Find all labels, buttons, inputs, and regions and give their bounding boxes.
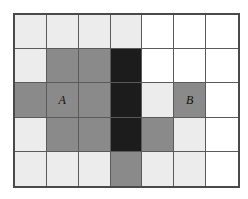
grid-cell-r4-c4 — [111, 118, 143, 152]
grid-cell-r3-c5 — [142, 83, 174, 117]
grid-cell-r2-c3 — [79, 49, 111, 83]
shaded-grid: AB — [13, 13, 240, 188]
grid-cell-r3-c1 — [15, 83, 47, 117]
grid-cell-r1-c3 — [79, 15, 111, 49]
grid-cell-r4-c5 — [142, 118, 174, 152]
grid-cell-r2-c6 — [174, 49, 206, 83]
grid-cell-r4-c2 — [47, 118, 79, 152]
grid-cell-r2-c5 — [142, 49, 174, 83]
grid-cell-r2-c7 — [206, 49, 238, 83]
grid-cell-r1-c2 — [47, 15, 79, 49]
grid-cell-r3-c4 — [111, 83, 143, 117]
grid-cell-r5-c6 — [174, 152, 206, 186]
grid-cell-r1-c1 — [15, 15, 47, 49]
grid-cell-r2-c2 — [47, 49, 79, 83]
cell-label-a: A — [59, 94, 66, 106]
grid-cell-r5-c1 — [15, 152, 47, 186]
grid-cell-r4-c3 — [79, 118, 111, 152]
grid-cell-r3-c7 — [206, 83, 238, 117]
grid-cell-r1-c7 — [206, 15, 238, 49]
grid-cell-r4-c7 — [206, 118, 238, 152]
cell-label-b: B — [186, 94, 193, 106]
grid-cell-r3-c6: B — [174, 83, 206, 117]
grid-cell-r1-c4 — [111, 15, 143, 49]
grid-cell-r2-c1 — [15, 49, 47, 83]
grid-cell-r3-c2: A — [47, 83, 79, 117]
grid-cell-r5-c4 — [111, 152, 143, 186]
grid-cell-r1-c6 — [174, 15, 206, 49]
grid-cell-r5-c2 — [47, 152, 79, 186]
grid-cell-r4-c6 — [174, 118, 206, 152]
grid-cell-r3-c3 — [79, 83, 111, 117]
grid-cell-r4-c1 — [15, 118, 47, 152]
grid-cell-r2-c4 — [111, 49, 143, 83]
grid-cell-r1-c5 — [142, 15, 174, 49]
diagram-canvas: AB — [0, 0, 248, 199]
grid-cell-r5-c3 — [79, 152, 111, 186]
grid-cell-r5-c5 — [142, 152, 174, 186]
grid-cell-r5-c7 — [206, 152, 238, 186]
